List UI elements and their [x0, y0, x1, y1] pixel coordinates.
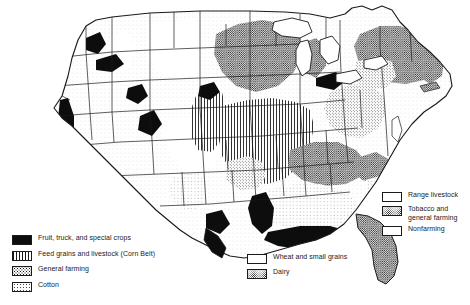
- legend-item: Tobacco and general farming: [382, 205, 458, 222]
- legend-label: General farming: [38, 265, 89, 274]
- legend-left: Fruit, truck, and special crops Feed gra…: [12, 234, 155, 296]
- legend-label: Dairy: [273, 268, 290, 277]
- region-fruit-imperial-valley: [76, 156, 94, 174]
- region-nonfarming-maine: [424, 18, 442, 42]
- legend-label: Range livestock: [408, 191, 458, 200]
- legend-label: Fruit, truck, and special crops: [38, 234, 131, 243]
- legend-label: Tobacco and general farming: [408, 205, 457, 222]
- legend-item: Wheat and small grains: [247, 253, 347, 264]
- legend-item: Fruit, truck, and special crops: [12, 234, 155, 245]
- region-nonfarming-cascades: [50, 26, 68, 84]
- swatch-range-livestock: [382, 192, 402, 202]
- region-fruit-puget-sound: [56, 18, 72, 36]
- legend-label: Feed grains and livestock (Corn Belt): [38, 250, 155, 259]
- legend-item: Range livestock: [382, 191, 458, 202]
- swatch-nonfarming: [382, 226, 402, 236]
- swatch-fruit-truck-special-crops: [12, 235, 32, 245]
- legend-item: Nonfarming: [382, 225, 458, 236]
- legend-label: Cotton: [38, 281, 59, 290]
- legend-item: Dairy: [247, 268, 347, 279]
- legend-item: Cotton: [12, 281, 155, 292]
- swatch-cotton: [12, 282, 32, 292]
- swatch-wheat-and-small-grains: [247, 254, 267, 264]
- legend-label: Wheat and small grains: [273, 253, 347, 262]
- legend-middle: Wheat and small grains Dairy: [247, 253, 347, 283]
- swatch-general-farming: [12, 266, 32, 276]
- swatch-dairy: [247, 269, 267, 279]
- legend-item: General farming: [12, 265, 155, 276]
- legend-label: Nonfarming: [408, 225, 445, 234]
- swatch-feed-grains-livestock-corn-belt: [12, 251, 32, 261]
- swatch-tobacco-and-general-farming: [382, 206, 402, 216]
- legend-item: Feed grains and livestock (Corn Belt): [12, 250, 155, 261]
- agricultural-regions-map-figure: Fruit, truck, and special crops Feed gra…: [0, 0, 470, 305]
- region-fruit-aroostook: [430, 10, 448, 30]
- legend-right: Range livestock Tobacco and general farm…: [382, 191, 458, 239]
